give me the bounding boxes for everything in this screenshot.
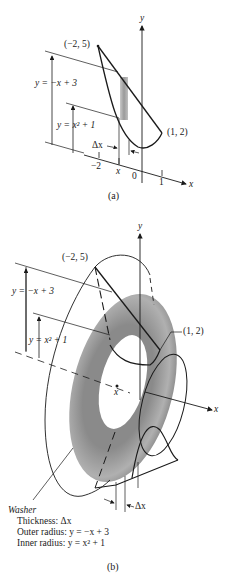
washer-title: Washer [8,505,109,516]
washer-thickness: Thickness: Δx [8,516,109,527]
washer-inner-radius: Inner radius: y = x² + 1 [8,538,109,549]
a-tick-x: x [116,167,120,177]
a-tick-neg2: −2 [91,162,101,172]
a-point-label-top: (−2, 5) [64,40,90,50]
a-line-outer [98,46,162,133]
a-caption: (a) [108,191,119,201]
b-center-label: x [114,388,118,398]
a-x-axis-label: x [189,180,193,190]
washer-outer-radius: Outer radius: y = −x + 3 [8,527,109,538]
b-y-axis-label: y [138,222,142,232]
a-outer-curve-label: y = −x + 3 [35,79,77,89]
a-strip [120,77,128,120]
b-point-label-right: (1, 2) [183,327,204,337]
a-inner-curve-label: y = x² + 1 [57,121,95,131]
a-delta-x-label: Δx [92,141,103,151]
b-x-axis-label: x [214,405,218,415]
a-point-label-right: (1, 2) [167,128,188,138]
washer-description: Washer Thickness: Δx Outer radius: y = −… [8,505,109,549]
b-inner-curve-label: y = x² + 1 [29,336,67,346]
b-caption: (b) [107,562,119,572]
a-tick-0: 0 [132,172,137,182]
a-tick-1: 1 [159,178,164,188]
b-point-label-top: (−2, 5) [62,253,88,263]
a-y-axis-label: y [140,14,144,24]
b-outer-curve-label: y = −x + 3 [12,287,54,297]
b-delta-x-label: Δx [135,502,146,512]
a-parabola-inner [98,46,162,148]
